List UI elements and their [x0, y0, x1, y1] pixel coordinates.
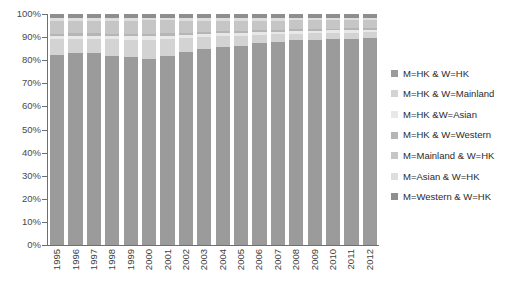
- bar-segment[interactable]: [50, 39, 64, 55]
- bar-stack[interactable]: [142, 14, 156, 245]
- bar-segment[interactable]: [344, 39, 358, 246]
- bar-segment[interactable]: [216, 21, 230, 32]
- bar-segment[interactable]: [363, 20, 377, 28]
- bar-segment[interactable]: [179, 52, 193, 245]
- x-tick-label: 1998: [108, 249, 118, 270]
- bar-segment[interactable]: [252, 35, 266, 43]
- bar-segment[interactable]: [124, 40, 138, 57]
- bar-segment[interactable]: [197, 21, 211, 32]
- x-label-slot: 1995: [48, 247, 66, 299]
- bar-segment[interactable]: [363, 38, 377, 245]
- legend-item[interactable]: M=Asian & W=HK: [391, 166, 527, 187]
- legend-swatch-icon: [391, 173, 398, 180]
- x-label-slot: 2002: [177, 247, 195, 299]
- bar-segment[interactable]: [234, 46, 248, 245]
- bar-stack[interactable]: [271, 14, 285, 245]
- bar-stack[interactable]: [363, 14, 377, 245]
- bar-segment[interactable]: [87, 21, 101, 34]
- bar-stack[interactable]: [252, 14, 266, 245]
- bar-stack[interactable]: [326, 14, 340, 245]
- legend-item[interactable]: M=Mainland & W=HK: [391, 145, 527, 166]
- y-tick-label: 80%: [1, 55, 41, 65]
- bar-segment[interactable]: [179, 38, 193, 52]
- bar-segment[interactable]: [160, 20, 174, 33]
- bar-segment[interactable]: [68, 21, 82, 34]
- bar-segment[interactable]: [160, 56, 174, 245]
- bar-segment[interactable]: [50, 21, 64, 34]
- bar-segment[interactable]: [344, 20, 358, 28]
- bar-segment[interactable]: [308, 20, 322, 29]
- legend-item[interactable]: M=Western & W=HK: [391, 187, 527, 208]
- bar-stack[interactable]: [105, 14, 119, 245]
- bar-segment[interactable]: [179, 21, 193, 33]
- bar-segment[interactable]: [197, 49, 211, 245]
- legend-item[interactable]: M=HK & W=Mainland: [391, 84, 527, 105]
- bar-segment[interactable]: [87, 53, 101, 245]
- bar-segment[interactable]: [124, 57, 138, 245]
- bar-stack[interactable]: [308, 14, 322, 245]
- bar-segment[interactable]: [271, 42, 285, 245]
- y-tick-label: 50%: [1, 125, 41, 135]
- y-tick-label: 90%: [1, 32, 41, 42]
- bar-segment[interactable]: [142, 59, 156, 245]
- bar-stack[interactable]: [234, 14, 248, 245]
- bar-segment[interactable]: [68, 53, 82, 245]
- bar-segment[interactable]: [234, 21, 248, 31]
- bar-slot: [195, 14, 213, 245]
- bar-stack[interactable]: [179, 14, 193, 245]
- x-label-slot: 2003: [195, 247, 213, 299]
- bar-segment[interactable]: [105, 56, 119, 245]
- bar-segment[interactable]: [289, 40, 303, 245]
- bar-segment[interactable]: [308, 40, 322, 245]
- legend-item[interactable]: M=HK & W=Western: [391, 125, 527, 146]
- bar-slot: [232, 14, 250, 245]
- bar-segment[interactable]: [289, 20, 303, 29]
- bar-stack[interactable]: [124, 14, 138, 245]
- x-label-slot: 2007: [269, 247, 287, 299]
- bar-stack[interactable]: [216, 14, 230, 245]
- y-tick-label: 20%: [1, 194, 41, 204]
- bar-slot: [140, 14, 158, 245]
- legend-label: M=HK & W=Mainland: [403, 89, 494, 99]
- bar-slot: [66, 14, 84, 245]
- bar-segment[interactable]: [216, 47, 230, 245]
- legend-item[interactable]: M=HK &W=Asian: [391, 104, 527, 125]
- bar-segment[interactable]: [197, 37, 211, 49]
- bar-segment[interactable]: [234, 36, 248, 46]
- x-tick-label: 2001: [163, 249, 173, 270]
- bar-segment[interactable]: [105, 39, 119, 55]
- bar-stack[interactable]: [87, 14, 101, 245]
- bar-segment[interactable]: [160, 39, 174, 56]
- bar-stack[interactable]: [289, 14, 303, 245]
- bar-segment[interactable]: [68, 39, 82, 53]
- bar-stack[interactable]: [197, 14, 211, 245]
- bar-segment[interactable]: [216, 36, 230, 47]
- bar-segment[interactable]: [252, 21, 266, 31]
- bar-segment[interactable]: [124, 21, 138, 34]
- legend-item[interactable]: M=HK & W=HK: [391, 63, 527, 84]
- bar-segment[interactable]: [87, 39, 101, 53]
- bar-segment[interactable]: [142, 20, 156, 34]
- x-label-slot: 1998: [103, 247, 121, 299]
- x-label-slot: 2005: [232, 247, 250, 299]
- legend-swatch-icon: [391, 152, 398, 159]
- bar-segment[interactable]: [326, 39, 340, 245]
- bar-segment[interactable]: [50, 55, 64, 245]
- bar-segment[interactable]: [105, 21, 119, 34]
- bar-segment[interactable]: [326, 20, 340, 29]
- legend-swatch-icon: [391, 193, 398, 200]
- bar-stack[interactable]: [68, 14, 82, 245]
- bar-segment[interactable]: [289, 34, 303, 41]
- bar-segment[interactable]: [271, 21, 285, 30]
- bar-segment[interactable]: [271, 34, 285, 41]
- bar-segment[interactable]: [252, 43, 266, 245]
- bar-stack[interactable]: [50, 14, 64, 245]
- bar-stack[interactable]: [160, 14, 174, 245]
- bar-stack[interactable]: [344, 14, 358, 245]
- bar-slot: [177, 14, 195, 245]
- stacked-bars: [48, 14, 379, 245]
- bar-segment[interactable]: [142, 40, 156, 59]
- x-label-slot: 1996: [66, 247, 84, 299]
- legend-label: M=Asian & W=HK: [403, 172, 480, 182]
- x-tick-label: 2005: [236, 249, 246, 270]
